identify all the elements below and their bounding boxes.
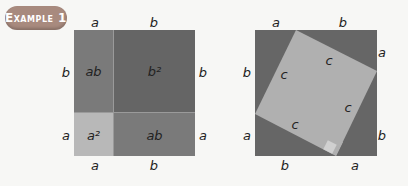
pythagorean-rotated-square-diagram bbox=[255, 30, 377, 156]
cell-label: a² bbox=[87, 127, 100, 142]
left-label: b bbox=[62, 65, 70, 80]
badge-label: Example 1 bbox=[5, 11, 67, 25]
right-label: b bbox=[199, 65, 207, 80]
left-label: a bbox=[62, 128, 70, 143]
side-c-label: c bbox=[280, 67, 287, 82]
cell-a-squared: a² bbox=[74, 113, 114, 156]
top-label: a bbox=[272, 15, 280, 30]
left-label: a bbox=[243, 128, 251, 143]
top-label: a bbox=[91, 15, 99, 30]
right-label: b bbox=[378, 128, 386, 143]
example-badge: Example 1 bbox=[5, 6, 67, 30]
side-c-label: c bbox=[344, 100, 351, 115]
right-label: a bbox=[378, 45, 386, 60]
bottom-label: a bbox=[91, 158, 99, 173]
bottom-label: a bbox=[351, 158, 359, 173]
bottom-label: b bbox=[281, 158, 289, 173]
left-label: b bbox=[243, 65, 251, 80]
top-label: b bbox=[339, 15, 347, 30]
side-c-label: c bbox=[291, 117, 298, 132]
bottom-label: b bbox=[150, 158, 158, 173]
cell-ab-top: ab bbox=[74, 30, 114, 113]
side-c-label: c bbox=[325, 53, 332, 68]
cell-label: b² bbox=[148, 64, 161, 79]
cell-b-squared: b² bbox=[114, 30, 195, 113]
cell-ab-bottom: ab bbox=[114, 113, 195, 156]
top-label: b bbox=[150, 15, 158, 30]
right-label: a bbox=[199, 128, 207, 143]
cell-label: ab bbox=[85, 64, 101, 79]
cell-label: ab bbox=[146, 127, 162, 142]
